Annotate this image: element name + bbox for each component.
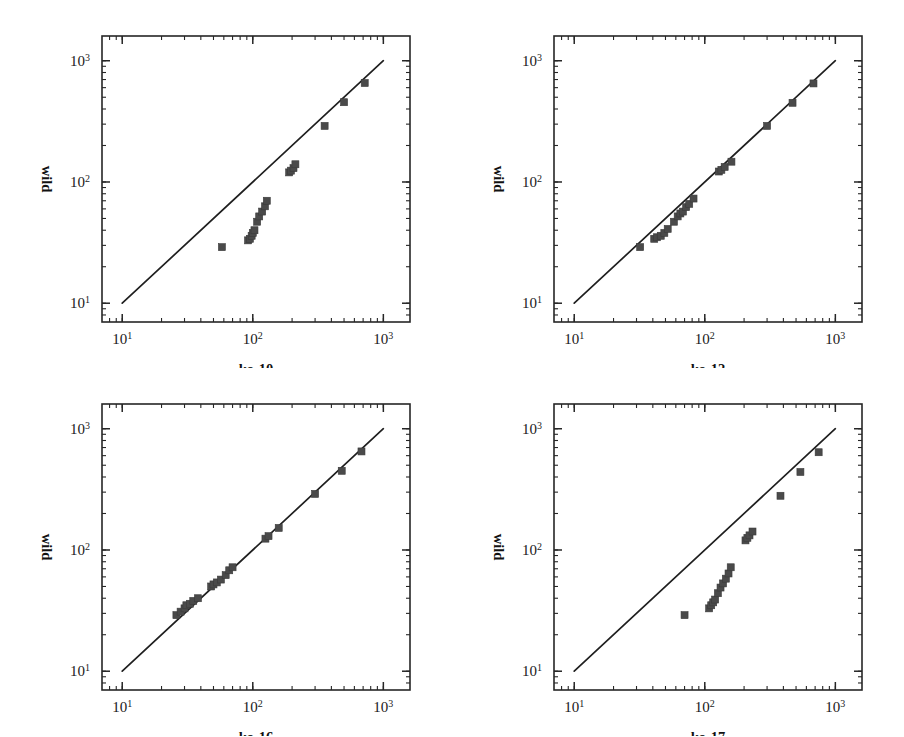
tick-label: 103 [70,52,90,69]
data-point [265,533,272,540]
tick-label: 103 [522,52,542,69]
tick-label: 101 [70,294,90,311]
data-point [312,490,319,497]
tick-label: 101 [564,698,584,715]
data-point [690,195,697,202]
data-point [229,564,236,571]
tick-label: 102 [522,541,542,558]
tick-label: 101 [522,294,542,311]
plot-area: 101102103101102103ko-17wild [452,368,904,736]
data-point [815,449,822,456]
data-point [218,244,225,251]
x-axis-title: ko-10 [239,361,274,368]
tick-label: 102 [243,330,263,347]
panel-ko-10: 101102103101102103ko-10wild [0,0,452,368]
data-point [728,158,735,165]
tick-label: 103 [373,698,393,715]
data-point [292,161,299,168]
tick-label: 101 [112,330,132,347]
tick-label: 103 [70,420,90,437]
tick-label: 102 [695,330,715,347]
data-point [338,467,345,474]
data-point [194,595,201,602]
data-point [721,163,728,170]
data-point [664,225,671,232]
data-point [764,122,771,129]
identity-reference-line [574,429,835,671]
tick-label: 103 [522,420,542,437]
identity-reference-line [122,429,383,671]
tick-label: 101 [564,330,584,347]
x-axis-title: ko-17 [691,729,726,736]
data-point [777,492,784,499]
panel-ko-12: 101102103101102103ko-12wild [452,0,904,368]
tick-label: 103 [825,330,845,347]
data-point [727,564,734,571]
identity-reference-line [574,61,835,303]
data-point [810,80,817,87]
tick-label: 101 [112,698,132,715]
data-point [251,227,258,234]
tick-label: 102 [695,698,715,715]
identity-reference-line [122,61,383,303]
data-point [681,612,688,619]
data-point [749,528,756,535]
tick-label: 102 [70,541,90,558]
plot-area: 101102103101102103ko-12wild [452,0,904,368]
data-point [712,596,719,603]
x-axis-title: ko-16 [239,729,274,736]
tick-label: 101 [70,662,90,679]
y-axis-title: wild [39,534,55,561]
data-point-group [681,449,822,619]
tick-label: 102 [243,698,263,715]
tick-label: 103 [373,330,393,347]
data-point [361,80,368,87]
tick-label: 103 [825,698,845,715]
data-point [797,468,804,475]
data-point-group [637,80,817,251]
data-point [275,524,282,531]
data-point [358,448,365,455]
data-point [341,99,348,106]
y-axis-title: wild [491,534,507,561]
x-axis-title: ko-12 [691,361,726,368]
data-point [789,99,796,106]
tick-label: 101 [522,662,542,679]
panel-ko-17: 101102103101102103ko-17wild [452,368,904,736]
data-point-group [218,80,368,251]
panel-ko-16: 101102103101102103ko-16wild [0,368,452,736]
plot-area: 101102103101102103ko-16wild [0,368,452,736]
tick-label: 102 [522,173,542,190]
plot-area: 101102103101102103ko-10wild [0,0,452,368]
data-point [321,122,328,129]
tick-label: 102 [70,173,90,190]
y-axis-title: wild [39,166,55,193]
data-point [637,244,644,251]
data-point [263,197,270,204]
figure-canvas: 101102103101102103ko-10wild 101102103101… [0,0,904,737]
y-axis-title: wild [491,166,507,193]
